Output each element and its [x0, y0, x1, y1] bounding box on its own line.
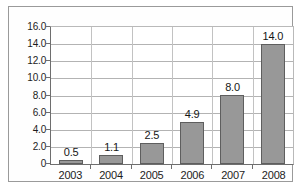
x-axis-tick-label: 2008	[253, 169, 294, 187]
bar-slot: 2.5	[132, 27, 172, 164]
y-axis-tick-mark	[46, 95, 50, 96]
bar-slot: 4.9	[172, 27, 212, 164]
x-axis-tick-labels: 200320042005200620072008	[50, 169, 294, 187]
y-axis-tick-mark	[46, 77, 50, 78]
bar-slot: 1.1	[91, 27, 131, 164]
y-axis-tick-mark	[46, 146, 50, 147]
y-axis-tick-label: 4.0	[33, 124, 46, 135]
bar[interactable]	[99, 155, 123, 164]
y-axis-tick-mark	[46, 129, 50, 130]
x-axis-tick-mark	[90, 165, 91, 169]
y-axis-tick-labels: 02.04.06.08.010.012.014.016.0	[17, 26, 46, 165]
y-axis-tick-label: 16.0	[27, 21, 46, 32]
bar-value-label: 4.9	[185, 108, 200, 120]
y-axis-tick-mark	[46, 60, 50, 61]
y-axis-tick-mark	[46, 112, 50, 113]
bar[interactable]	[59, 160, 83, 164]
bar-value-label: 14.0	[263, 30, 284, 42]
x-axis-tick-label: 2005	[131, 169, 172, 187]
bar-slot: 14.0	[253, 27, 293, 164]
bar[interactable]	[220, 95, 244, 164]
bar-value-label: 0.5	[64, 146, 79, 158]
bar-slot: 0.5	[51, 27, 91, 164]
bar-value-label: 1.1	[104, 141, 119, 153]
bar-chart-figure: 02.04.06.08.010.012.014.016.0 0.51.12.54…	[0, 0, 303, 193]
y-axis-tick-mark	[46, 43, 50, 44]
bar-value-label: 2.5	[144, 129, 159, 141]
x-axis-tick-mark	[252, 165, 253, 169]
x-axis-tick-label: 2006	[172, 169, 213, 187]
x-axis-tick-label: 2003	[50, 169, 91, 187]
y-axis-tick-label: 8.0	[33, 90, 46, 101]
y-axis-tick-mark	[46, 163, 50, 164]
x-axis-tick-mark	[131, 165, 132, 169]
bar-value-label: 8.0	[225, 81, 240, 93]
x-axis-tick-label: 2007	[213, 169, 254, 187]
y-axis-tick-label: 10.0	[27, 72, 46, 83]
bar[interactable]	[261, 44, 285, 164]
plot-area: 0.51.12.54.98.014.0	[50, 26, 294, 165]
x-axis-tick-mark	[171, 165, 172, 169]
x-axis-tick-label: 2004	[91, 169, 132, 187]
x-axis-tick-mark	[211, 165, 212, 169]
y-axis-tick-label: 12.0	[27, 55, 46, 66]
bar-slot: 8.0	[212, 27, 252, 164]
y-axis-tick-label: 2.0	[33, 141, 46, 152]
y-axis-tick-mark	[46, 26, 50, 27]
y-axis-tick-label: 6.0	[33, 107, 46, 118]
y-axis-tick-label: 14.0	[27, 38, 46, 49]
bar[interactable]	[180, 122, 204, 164]
bar[interactable]	[140, 143, 164, 164]
chart-outer-frame: 02.04.06.08.010.012.014.016.0 0.51.12.54…	[8, 6, 293, 182]
